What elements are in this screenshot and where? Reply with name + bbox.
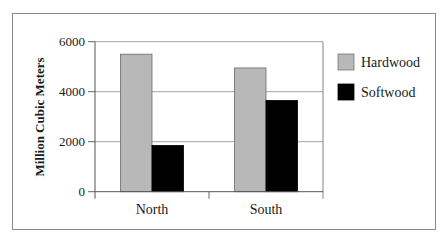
y-tick-label: 2000 xyxy=(59,134,85,149)
bar-hardwood-north xyxy=(121,54,153,192)
legend-swatch-hardwood xyxy=(338,54,354,70)
y-axis-title: Million Cubic Meters xyxy=(32,57,47,176)
legend-label-softwood: Softwood xyxy=(361,85,415,100)
x-category-label: North xyxy=(136,202,169,217)
y-tick-label: 6000 xyxy=(59,34,85,49)
bars xyxy=(121,54,298,192)
legend: Hardwood Softwood xyxy=(338,54,420,100)
bar-softwood-south xyxy=(266,100,298,191)
x-category-label: South xyxy=(250,202,283,217)
y-axis-ticks: 0200040006000 xyxy=(59,34,95,199)
y-tick-label: 4000 xyxy=(59,84,85,99)
legend-label-hardwood: Hardwood xyxy=(361,55,420,70)
y-tick-label: 0 xyxy=(79,184,86,199)
bar-hardwood-south xyxy=(235,68,267,192)
bar-chart: Million Cubic Meters 0200040006000 North… xyxy=(0,0,448,240)
x-axis-labels: NorthSouth xyxy=(136,202,283,217)
bar-softwood-north xyxy=(152,145,184,191)
legend-swatch-softwood xyxy=(338,84,354,100)
